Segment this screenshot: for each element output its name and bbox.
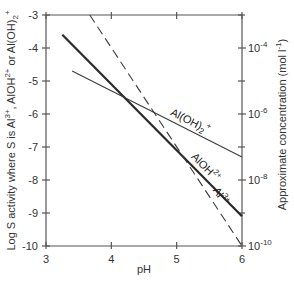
y-axis-label: Log S activity where S is Al3+, AlOH2+ o… <box>3 10 20 250</box>
y-tick-label: -6 <box>28 108 38 120</box>
y2-tick-label: 10-8 <box>248 172 268 186</box>
y2-axis-label: Approximate concentration (mol l-1) <box>274 39 288 211</box>
y-tick-label: -5 <box>28 75 38 87</box>
x-tick-label: 6 <box>239 253 245 265</box>
x-tick-label: 3 <box>43 253 49 265</box>
x-tick-label: 5 <box>174 253 180 265</box>
y-tick-label: -10 <box>22 240 38 252</box>
series-label: Al(OH)2+ <box>167 104 213 139</box>
chart: 3456pH-3-4-5-6-7-8-9-1010-410-610-810-10… <box>0 0 294 284</box>
y-tick-label: -4 <box>28 42 38 54</box>
series-line-al-oh-2 <box>72 71 242 157</box>
y2-tick-label: 10-6 <box>248 106 268 120</box>
y-tick-label: -8 <box>28 174 38 186</box>
y-tick-label: -9 <box>28 207 38 219</box>
y2-tick-label: 10-10 <box>248 238 272 252</box>
y-tick-label: -3 <box>28 9 38 21</box>
labels-group: AlOH2+Al(OH)2+Al3+ <box>167 104 233 207</box>
series-group <box>62 15 242 246</box>
y2-tick-label: 10-4 <box>248 40 268 54</box>
x-axis-label: pH <box>137 263 151 275</box>
series-label: AlOH2+ <box>189 149 224 184</box>
axes: 3456pH-3-4-5-6-7-8-9-1010-410-610-810-10… <box>3 9 288 275</box>
x-tick-label: 4 <box>108 253 114 265</box>
series-line-al3 <box>90 15 242 246</box>
y-tick-label: -7 <box>28 141 38 153</box>
